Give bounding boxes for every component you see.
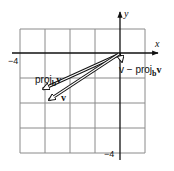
- v-label: v: [61, 92, 66, 103]
- y-tick-label: −4: [104, 149, 114, 159]
- x-tick-label: −4: [8, 56, 18, 66]
- perp-label: v − projbv: [119, 64, 162, 78]
- projection-diagram: x y −4 −4 projbv v v − projbv: [0, 0, 174, 171]
- grid: [20, 29, 145, 153]
- x-axis-label: x: [154, 38, 160, 49]
- y-axis-label: y: [123, 8, 129, 19]
